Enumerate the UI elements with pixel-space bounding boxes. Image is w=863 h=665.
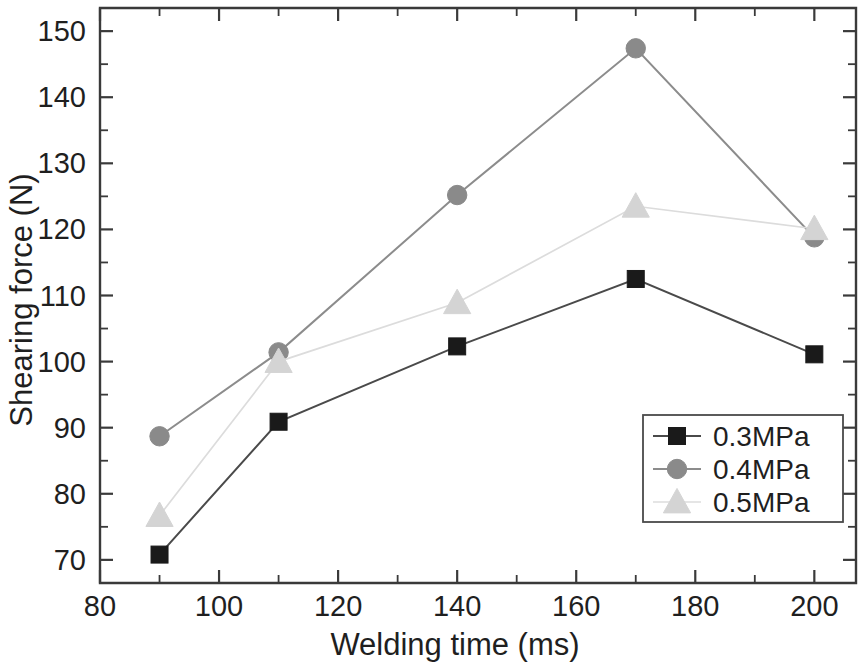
x-axis-title: Welding time (ms) bbox=[330, 627, 579, 662]
data-point-marker bbox=[627, 270, 644, 287]
legend-item-0-5MPa[interactable]: 0.5MPa bbox=[653, 487, 810, 518]
data-point-marker bbox=[444, 289, 471, 313]
y-tick-label: 140 bbox=[38, 81, 86, 113]
data-point-marker bbox=[806, 346, 823, 363]
x-axis-tick-labels: 80100120140160180200 bbox=[84, 590, 839, 622]
y-tick-label: 100 bbox=[38, 346, 86, 378]
series-0-4MPa bbox=[150, 39, 824, 446]
y-tick-label: 90 bbox=[54, 412, 86, 444]
legend-label: 0.3MPa bbox=[713, 421, 810, 452]
legend-marker-circle-icon bbox=[667, 459, 686, 478]
y-axis-title: Shearing force (N) bbox=[4, 173, 39, 426]
x-tick-label: 100 bbox=[195, 590, 243, 622]
y-tick-label: 110 bbox=[40, 280, 86, 312]
chart-figure: 80100120140160180200 7080901001101201301… bbox=[0, 0, 863, 665]
x-tick-label: 80 bbox=[84, 590, 116, 622]
x-tick-label: 120 bbox=[314, 590, 362, 622]
data-point-marker bbox=[150, 427, 169, 446]
y-tick-label: 80 bbox=[54, 478, 86, 510]
x-tick-label: 200 bbox=[790, 590, 838, 622]
chart-legend: 0.3MPa0.4MPa0.5MPa bbox=[643, 415, 843, 522]
data-point-marker bbox=[626, 39, 645, 58]
y-tick-label: 70 bbox=[54, 544, 86, 576]
legend-label: 0.4MPa bbox=[713, 454, 810, 485]
legend-label: 0.5MPa bbox=[713, 487, 810, 518]
x-tick-label: 180 bbox=[671, 590, 719, 622]
y-tick-label: 130 bbox=[38, 147, 86, 179]
data-point-marker bbox=[270, 413, 287, 430]
line-chart: 80100120140160180200 7080901001101201301… bbox=[0, 0, 863, 665]
series-line bbox=[160, 48, 815, 436]
x-tick-label: 140 bbox=[433, 590, 481, 622]
data-point-marker bbox=[146, 502, 173, 526]
legend-marker-square-icon bbox=[669, 428, 686, 445]
y-axis-tick-labels: 708090100110120130140150 bbox=[38, 15, 86, 576]
y-tick-label: 120 bbox=[38, 213, 86, 245]
data-point-marker bbox=[449, 338, 466, 355]
data-point-marker bbox=[622, 193, 649, 217]
data-point-marker bbox=[447, 185, 466, 204]
y-tick-label: 150 bbox=[38, 15, 86, 47]
data-point-marker bbox=[151, 546, 168, 563]
x-tick-label: 160 bbox=[552, 590, 600, 622]
